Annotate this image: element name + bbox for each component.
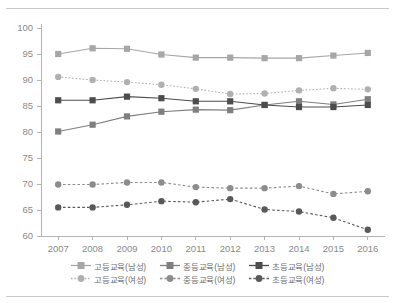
- data-point-marker: [296, 87, 302, 93]
- data-point-marker: [158, 95, 164, 101]
- data-point-marker: [365, 50, 371, 56]
- series-line: [58, 77, 368, 94]
- legend-label-primary-education-male: 초등교육(남성): [272, 260, 324, 272]
- data-point-marker: [124, 46, 130, 52]
- data-point-marker: [330, 52, 336, 58]
- data-point-marker: [55, 97, 61, 103]
- data-point-marker: [124, 79, 130, 85]
- legend-item-higher-education-male[interactable]: 고등교육(남성): [71, 260, 146, 272]
- data-point-marker: [227, 55, 233, 61]
- data-point-marker: [193, 98, 199, 104]
- data-point-marker: [330, 191, 336, 197]
- data-point-marker: [158, 81, 164, 87]
- legend-label-secondary-education-female: 중등교육(여성): [183, 273, 235, 285]
- data-point-marker: [262, 102, 268, 108]
- data-point-marker: [227, 196, 233, 202]
- data-point-marker: [55, 128, 61, 134]
- line-chart-svg: 6065707580859095100200720082009201020112…: [0, 12, 395, 252]
- data-point-marker: [89, 181, 95, 187]
- legend-item-secondary-education-male[interactable]: 중등교육(남성): [160, 260, 235, 272]
- legend-label-higher-education-male: 고등교육(남성): [94, 260, 146, 272]
- top-divider-rule: [6, 8, 389, 9]
- series-line: [58, 182, 368, 193]
- data-point-marker: [227, 91, 233, 97]
- x-axis-tick-label: 2008: [82, 243, 103, 252]
- data-point-marker: [55, 74, 61, 80]
- data-point-marker: [193, 55, 199, 61]
- legend-label-primary-education-female: 초등교육(여성): [272, 273, 324, 285]
- data-point-marker: [330, 85, 336, 91]
- data-point-marker: [227, 185, 233, 191]
- legend-swatch-primary-education-male: [249, 261, 269, 270]
- legend-label-higher-education-female: 고등교육(여성): [94, 273, 146, 285]
- data-point-marker: [296, 104, 302, 110]
- data-point-marker: [365, 102, 371, 108]
- data-point-marker: [90, 45, 96, 51]
- data-point-marker: [193, 86, 199, 92]
- series-5: [55, 179, 371, 197]
- data-point-marker: [296, 208, 302, 214]
- data-point-marker: [158, 198, 164, 204]
- bottom-divider-rule: [6, 296, 389, 297]
- x-axis-tick-label: 2013: [254, 243, 275, 252]
- legend-row-female: 고등교육(여성) 중등교육(여성) 초등교육(여성): [0, 272, 395, 285]
- y-axis-tick-label: 90: [22, 74, 33, 85]
- data-point-marker: [261, 185, 267, 191]
- legend-swatch-higher-education-male: [71, 261, 91, 270]
- series-line: [58, 97, 368, 107]
- x-axis-tick-label: 2014: [288, 243, 309, 252]
- series-2: [55, 96, 371, 134]
- data-point-marker: [55, 181, 61, 187]
- y-axis-tick-label: 70: [22, 178, 33, 189]
- legend-item-primary-education-male[interactable]: 초등교육(남성): [249, 260, 324, 272]
- x-axis-tick-label: 2007: [48, 243, 69, 252]
- data-point-marker: [193, 107, 199, 113]
- chart-legend: 고등교육(남성) 중등교육(남성) 초등교육(남성): [0, 259, 395, 285]
- data-point-marker: [89, 77, 95, 83]
- x-axis-tick-label: 2015: [323, 243, 344, 252]
- x-axis-tick-label: 2011: [186, 243, 206, 252]
- data-point-marker: [124, 202, 130, 208]
- data-point-marker: [90, 97, 96, 103]
- y-axis-tick-label: 60: [22, 230, 33, 241]
- y-axis-tick-label: 100: [17, 22, 33, 33]
- data-point-marker: [365, 188, 371, 194]
- legend-swatch-higher-education-female: [71, 274, 91, 283]
- data-point-marker: [365, 227, 371, 233]
- x-axis-tick-label: 2010: [151, 243, 172, 252]
- data-point-marker: [330, 215, 336, 221]
- series-1: [55, 45, 371, 61]
- x-axis-tick-label: 2012: [220, 243, 241, 252]
- data-point-marker: [55, 204, 61, 210]
- legend-item-higher-education-female[interactable]: 고등교육(여성): [71, 273, 146, 285]
- data-point-marker: [296, 55, 302, 61]
- y-axis-tick-label: 85: [22, 100, 33, 111]
- data-point-marker: [158, 51, 164, 57]
- y-axis-tick-label: 65: [22, 204, 33, 215]
- data-point-marker: [193, 184, 199, 190]
- legend-label-secondary-education-male: 중등교육(남성): [183, 260, 235, 272]
- legend-item-secondary-education-female[interactable]: 중등교육(여성): [160, 273, 235, 285]
- data-point-marker: [296, 183, 302, 189]
- data-point-marker: [330, 104, 336, 110]
- data-point-marker: [261, 206, 267, 212]
- data-point-marker: [261, 90, 267, 96]
- legend-item-primary-education-female[interactable]: 초등교육(여성): [249, 273, 324, 285]
- y-axis-tick-label: 75: [22, 152, 33, 163]
- x-axis-tick-label: 2009: [116, 243, 137, 252]
- data-point-marker: [158, 179, 164, 185]
- data-point-marker: [296, 98, 302, 104]
- data-point-marker: [124, 179, 130, 185]
- y-axis-tick-label: 95: [22, 48, 33, 59]
- data-point-marker: [193, 199, 199, 205]
- legend-swatch-secondary-education-male: [160, 261, 180, 270]
- series-line: [58, 199, 368, 230]
- data-point-marker: [124, 94, 130, 100]
- plot-area: 6065707580859095100200720082009201020112…: [0, 12, 395, 252]
- y-axis-tick-label: 80: [22, 126, 33, 137]
- chart-figure: 6065707580859095100200720082009201020112…: [0, 0, 395, 303]
- legend-row-male: 고등교육(남성) 중등교육(남성) 초등교육(남성): [0, 259, 395, 272]
- data-point-marker: [262, 55, 268, 61]
- data-point-marker: [55, 51, 61, 57]
- series-3: [55, 94, 371, 111]
